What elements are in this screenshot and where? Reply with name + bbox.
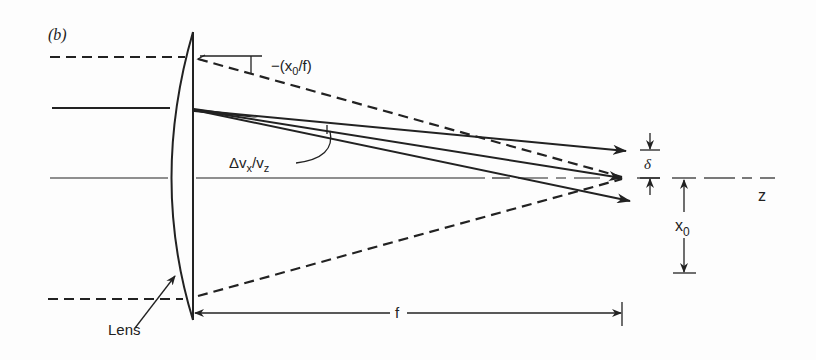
x0-label: x0	[675, 217, 690, 239]
delta-label: δ	[644, 156, 652, 172]
angle-label-top: −(x0/f)	[271, 57, 312, 77]
diagram-svg: (b) −(x0/f)	[0, 0, 816, 360]
lens-label: Lens	[108, 321, 141, 338]
lens-pointer-arrow	[135, 276, 175, 328]
z-axis-label: z	[758, 187, 766, 204]
focal-length-label: f	[395, 304, 400, 321]
spread-angle-label: Δvx/vz	[229, 154, 269, 174]
panel-label: (b)	[48, 26, 67, 44]
top-angle-indicator	[198, 55, 262, 73]
focal-length-dimension	[195, 302, 622, 326]
lens-focusing-diagram: (b) −(x0/f)	[0, 0, 816, 360]
